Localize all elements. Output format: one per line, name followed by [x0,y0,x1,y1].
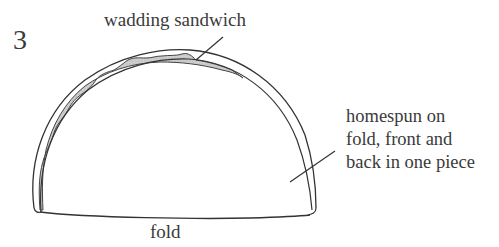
homespun-label-line-2: fold, front and [346,128,475,151]
homespun-label-line-1: homespun on [346,105,475,128]
wadding-sandwich-label: wadding sandwich [104,10,246,29]
homespun-leader [290,151,335,182]
homespun-label-line-3: back in one piece [346,151,475,174]
homespun-label: homespun on fold, front and back in one … [346,105,475,174]
fold-line [40,212,310,218]
fold-label: fold [150,222,181,241]
figure-number: 3 [13,26,27,54]
wadding-leader [196,37,223,60]
tea-cosy-diagram: 3 wadding sandwich homespun on fold, fro… [0,0,499,247]
outer-arc [33,50,316,208]
inner-arc [41,59,312,212]
wadding-layer [39,53,243,210]
